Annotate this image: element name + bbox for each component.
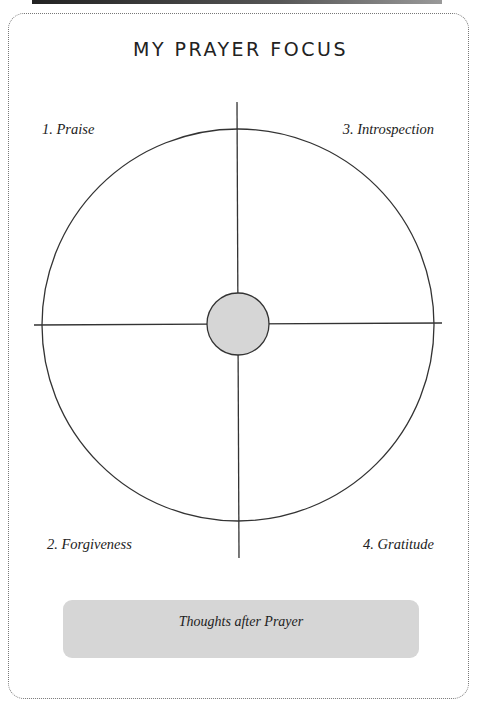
thoughts-after-prayer-box[interactable]: Thoughts after Prayer bbox=[63, 600, 419, 658]
quadrant-label-forgiveness: 2. Forgiveness bbox=[47, 536, 132, 553]
quadrant-label-introspection: 3. Introspection bbox=[343, 121, 434, 138]
center-circle bbox=[207, 293, 269, 355]
thoughts-after-prayer-label: Thoughts after Prayer bbox=[63, 614, 419, 630]
quadrant-label-gratitude: 4. Gratitude bbox=[363, 536, 434, 553]
quadrant-label-praise: 1. Praise bbox=[42, 121, 94, 138]
